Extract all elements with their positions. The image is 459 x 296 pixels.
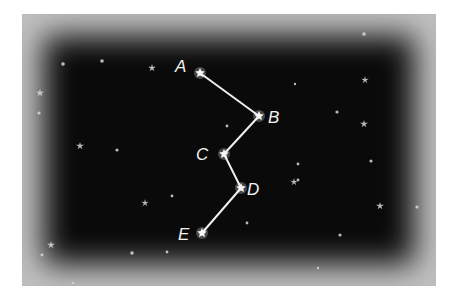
background-star-icon [294,83,296,85]
background-star-icon [362,32,366,36]
background-star-icon [148,64,156,71]
background-star-icon [226,125,229,128]
connection-line-b-c [224,116,259,154]
background-star-icon [290,178,297,185]
background-star-icon [72,282,74,284]
star-label-e: E [178,225,190,244]
background-star-icon [141,199,148,206]
background-star-icon [376,202,384,209]
background-star-icon [41,254,44,257]
background-star-icon [115,148,118,151]
background-star-icon [335,110,338,113]
background-star-icon [171,195,174,198]
connection-line-d-e [202,188,241,233]
star-label-b: B [268,108,279,127]
background-star-icon [361,76,368,83]
background-star-icon [297,163,300,166]
background-star-icon [338,233,341,236]
star-label-d: D [247,180,259,199]
background-star-icon [37,111,40,114]
star-label-a: A [174,57,186,76]
star-label-c: C [196,145,209,164]
background-star-icon [76,142,84,149]
background-star-icon [246,222,249,225]
background-star-icon [369,159,372,162]
background-star-icon [415,205,418,208]
connection-line-a-b [200,73,259,116]
constellation-figure: ABCDE [0,0,459,296]
background-star-icon [47,241,55,248]
background-star-icon [166,251,169,254]
background-star-icon [100,59,104,63]
background-star-icon [36,89,44,96]
background-star-icon [61,62,65,66]
background-star-icon [317,267,319,269]
background-star-icon [360,120,368,127]
background-star-icon [130,251,134,255]
background-star-icon [297,179,300,182]
constellation-diagram: ABCDE [0,0,459,296]
